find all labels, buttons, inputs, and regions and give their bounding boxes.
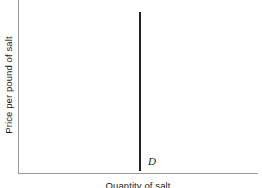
x-axis-title: Quantity of salt xyxy=(18,181,258,188)
y-axis-line xyxy=(18,0,19,174)
demand-curve-label: D xyxy=(148,156,156,167)
x-axis-line xyxy=(18,173,258,174)
demand-curve-chart: Price per pound of salt D Quantity of sa… xyxy=(0,0,262,188)
demand-curve-line xyxy=(139,12,141,171)
y-axis-title: Price per pound of salt xyxy=(1,0,17,172)
